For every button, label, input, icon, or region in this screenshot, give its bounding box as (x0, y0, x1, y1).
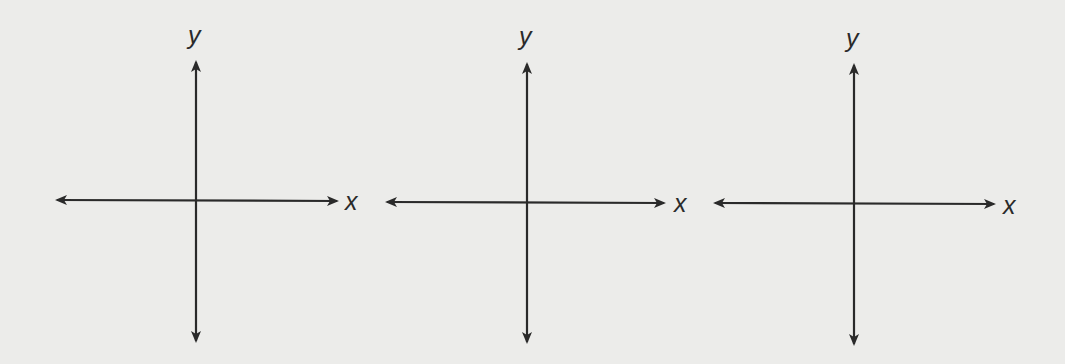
x-axis (57, 200, 337, 201)
y-axis-label: y (844, 24, 860, 52)
x-axis (715, 203, 994, 204)
x-axis-label: x (673, 189, 688, 217)
x-axis-label: x (1002, 191, 1017, 219)
y-axis-label: y (517, 22, 533, 50)
y-axis-label: y (186, 21, 202, 49)
coordinate-plane-2: y x (387, 22, 688, 342)
x-axis (387, 202, 664, 203)
axes-diagram: y x y x y x (0, 0, 1065, 364)
coordinate-plane-3: y x (715, 24, 1017, 344)
coordinate-plane-1: y x (57, 21, 359, 341)
x-axis-label: x (344, 187, 359, 215)
